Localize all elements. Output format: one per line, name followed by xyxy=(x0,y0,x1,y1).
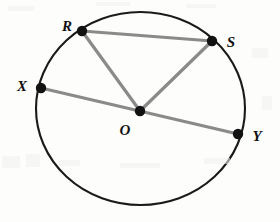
point-r[interactable] xyxy=(77,26,87,36)
label-o: O xyxy=(120,123,131,138)
chord-layer xyxy=(41,31,238,134)
point-s[interactable] xyxy=(207,36,217,46)
label-r: R xyxy=(62,19,72,34)
diagram-canvas xyxy=(0,0,280,222)
point-layer xyxy=(36,26,243,139)
point-o[interactable] xyxy=(135,106,145,116)
radius-O-S xyxy=(140,41,212,111)
point-y[interactable] xyxy=(233,129,243,139)
chord-R-S xyxy=(82,31,212,41)
label-s: S xyxy=(227,35,235,50)
label-x: X xyxy=(17,79,27,94)
label-y: Y xyxy=(252,129,261,144)
point-x[interactable] xyxy=(36,83,46,93)
geometry-figure: RSXYO xyxy=(0,0,280,222)
